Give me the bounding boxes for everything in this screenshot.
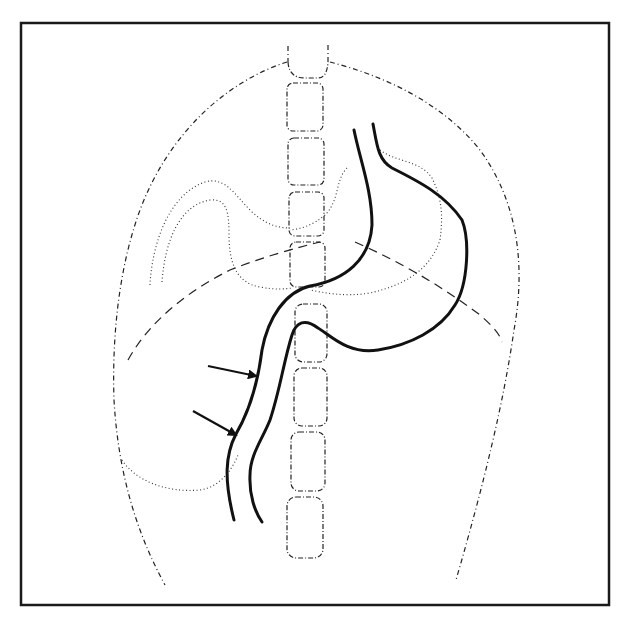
vertebra xyxy=(291,432,325,491)
vertebral-column xyxy=(287,62,328,558)
vertebra xyxy=(287,497,323,558)
esophagus-stomach xyxy=(227,124,467,522)
vertebra xyxy=(295,304,327,362)
vertebra xyxy=(289,192,324,236)
arrows xyxy=(193,366,256,435)
vertebra xyxy=(287,83,323,131)
organ-outlines xyxy=(122,150,442,490)
arrow-icon xyxy=(193,411,236,435)
diaphragm-line xyxy=(128,242,502,360)
diagram-canvas xyxy=(0,0,620,618)
body-outline xyxy=(114,45,519,585)
vertebra xyxy=(288,138,324,185)
figure-frame xyxy=(21,23,609,605)
arrow-icon xyxy=(208,366,256,376)
vertebra xyxy=(294,368,327,426)
anatomy-diagram xyxy=(0,0,620,618)
vertebra xyxy=(290,242,325,287)
